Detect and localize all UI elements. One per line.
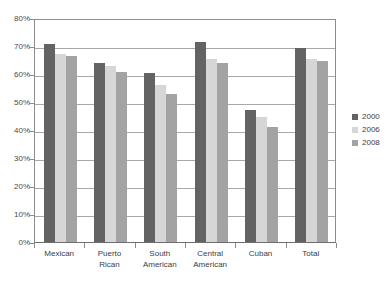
bar <box>317 61 328 242</box>
x-axis-category-label: South American <box>135 249 185 270</box>
bar <box>306 59 317 242</box>
x-axis-category-label: Cuban <box>235 249 285 260</box>
x-axis-tick-mark <box>135 243 136 248</box>
chart-legend: 200020062008 <box>352 110 380 149</box>
bar <box>116 72 127 242</box>
x-axis-category-label: Puerto Rican <box>84 249 134 270</box>
bar-group <box>136 20 186 242</box>
bar <box>245 110 256 242</box>
bar-group <box>35 20 85 242</box>
bar-chart: 0%10%20%30%40%50%60%70%80% MexicanPuerto… <box>0 0 392 290</box>
bar <box>295 48 306 242</box>
legend-label: 2008 <box>362 139 380 147</box>
y-axis-tick-label: 40% <box>0 127 30 135</box>
bar-group <box>287 20 337 242</box>
bar <box>105 66 116 242</box>
y-axis-tick-label: 10% <box>0 211 30 219</box>
bar-group <box>236 20 286 242</box>
bar <box>206 59 217 242</box>
x-axis-tick-mark <box>336 243 337 248</box>
bar <box>166 94 177 242</box>
bar-group <box>186 20 236 242</box>
bar-group <box>85 20 135 242</box>
x-axis-category-label: Central American <box>185 249 235 270</box>
x-axis-tick-mark <box>235 243 236 248</box>
bar <box>94 63 105 242</box>
bar <box>155 85 166 242</box>
plot-area <box>34 19 336 243</box>
bar <box>267 127 278 242</box>
bar <box>217 63 228 242</box>
bar <box>256 117 267 242</box>
x-axis-category-label: Total <box>286 249 336 260</box>
x-axis-tick-mark <box>286 243 287 248</box>
y-axis-tick-label: 60% <box>0 71 30 79</box>
y-axis-tick-label: 70% <box>0 43 30 51</box>
y-axis-tick-label: 20% <box>0 183 30 191</box>
y-axis-tick-label: 50% <box>0 99 30 107</box>
legend-item[interactable]: 2008 <box>352 136 380 149</box>
y-axis-tick-label: 30% <box>0 155 30 163</box>
y-axis-tick-label: 80% <box>0 15 30 23</box>
legend-swatch-2000-icon <box>352 114 358 120</box>
y-axis-tick-label: 0% <box>0 239 30 247</box>
legend-swatch-2008-icon <box>352 140 358 146</box>
bar <box>195 42 206 242</box>
bar <box>44 44 55 242</box>
bar <box>55 54 66 242</box>
bar <box>66 56 77 242</box>
legend-swatch-2006-icon <box>352 127 358 133</box>
bar <box>144 73 155 242</box>
x-axis-tick-mark <box>34 243 35 248</box>
x-axis-tick-mark <box>84 243 85 248</box>
x-axis-category-label: Mexican <box>34 249 84 260</box>
legend-label: 2006 <box>362 126 380 134</box>
x-axis-tick-mark <box>185 243 186 248</box>
legend-item[interactable]: 2000 <box>352 110 380 123</box>
legend-item[interactable]: 2006 <box>352 123 380 136</box>
legend-label: 2000 <box>362 113 380 121</box>
